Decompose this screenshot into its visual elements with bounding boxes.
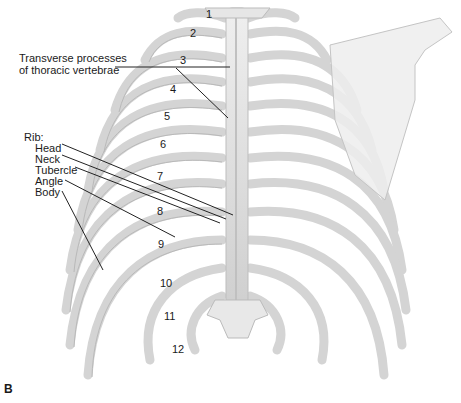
rib-number-2: 2 xyxy=(190,27,196,39)
rib-cage-diagram: Transverse processes of thoracic vertebr… xyxy=(0,0,461,403)
rib-number-4: 4 xyxy=(170,83,176,95)
label-transverse-line2: of thoracic vertebrae xyxy=(19,64,127,76)
rib-number-9: 9 xyxy=(158,238,164,250)
rib-number-8: 8 xyxy=(157,205,163,217)
rib-number-12: 12 xyxy=(172,343,184,355)
rib-number-10: 10 xyxy=(160,277,172,289)
label-transverse-line1: Transverse processes xyxy=(19,52,127,64)
rib-number-1: 1 xyxy=(206,8,212,20)
rib-number-3: 3 xyxy=(180,54,186,66)
rib-number-7: 7 xyxy=(157,170,163,182)
rib-number-11: 11 xyxy=(164,310,175,322)
rib-number-6: 6 xyxy=(160,138,166,150)
label-transverse-processes: Transverse processes of thoracic vertebr… xyxy=(19,52,127,76)
panel-letter: B xyxy=(4,382,13,396)
rib-number-5: 5 xyxy=(164,110,170,122)
label-rib-body: Body xyxy=(35,186,60,198)
lumbar-vertebra xyxy=(207,300,268,338)
